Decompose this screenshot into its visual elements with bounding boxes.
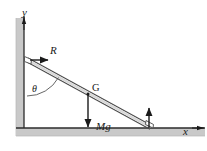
wall-band xyxy=(16,18,24,136)
rod-upper-edge xyxy=(28,58,151,125)
y-axis-label: y xyxy=(21,6,27,18)
angle-label: θ xyxy=(32,83,37,94)
wall-support xyxy=(16,16,24,136)
centroid-label: G xyxy=(92,82,100,93)
free-body-diagram: y x R θ G Mg xyxy=(0,0,207,151)
figure-canvas: y x R θ G Mg xyxy=(0,0,207,151)
reaction-force-label: R xyxy=(49,44,57,56)
weight-label: Mg xyxy=(95,120,111,132)
weight-force-arrow xyxy=(87,93,90,128)
x-axis-label: x xyxy=(182,125,188,137)
